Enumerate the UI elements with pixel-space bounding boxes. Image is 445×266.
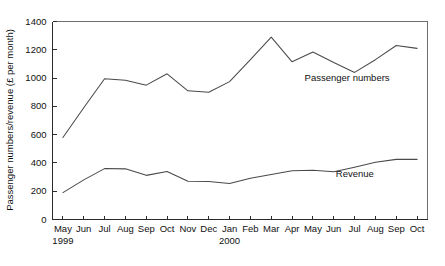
x-axis-tick-label: Nov xyxy=(179,223,196,234)
x-axis-tick-label: Jan xyxy=(222,223,237,234)
y-axis-ticks xyxy=(53,22,57,220)
x-axis-ticks xyxy=(63,216,417,220)
x-axis-tick-label: Aug xyxy=(117,223,134,234)
y-axis-tick-label: 1000 xyxy=(25,72,46,83)
plot-axes xyxy=(53,22,428,220)
x-axis-tick-label: May xyxy=(54,223,72,234)
y-axis-tick-label: 400 xyxy=(31,157,47,168)
y-axis-tick-labels: 0200400600800100012001400 xyxy=(25,16,46,225)
x-axis-tick-label: Oct xyxy=(410,223,425,234)
y-axis-title: Passenger numbers/revenue (£ per month) xyxy=(4,29,15,211)
x-axis-tick-label: Aug xyxy=(367,223,384,234)
x-axis-tick-label: Mar xyxy=(263,223,279,234)
x-axis-tick-label: Oct xyxy=(160,223,175,234)
x-axis-tick-label: May xyxy=(304,223,322,234)
x-axis-tick-label: Sep xyxy=(388,223,405,234)
x-axis-year-label: 2000 xyxy=(219,235,240,246)
plot-frame xyxy=(53,22,428,220)
x-axis-tick-label: Jun xyxy=(326,223,341,234)
series-label-passenger-numbers: Passenger numbers xyxy=(305,72,390,83)
series-inline-labels: Passenger numbersRevenue xyxy=(305,72,390,179)
x-axis-tick-label: Feb xyxy=(242,223,258,234)
x-axis-tick-labels: MayJunJulAugSepOctNovDecJanFebMarAprMayJ… xyxy=(54,223,425,234)
x-axis-tick-label: Jun xyxy=(76,223,91,234)
y-axis-tick-label: 1400 xyxy=(25,16,46,27)
line-chart: 0200400600800100012001400 MayJunJulAugSe… xyxy=(0,0,445,266)
chart-canvas: 0200400600800100012001400 MayJunJulAugSe… xyxy=(0,0,445,266)
x-axis-tick-label: Dec xyxy=(200,223,217,234)
y-axis-tick-label: 0 xyxy=(41,214,46,225)
x-axis-tick-label: Apr xyxy=(285,223,300,234)
x-axis-tick-label: Jul xyxy=(349,223,361,234)
x-axis-year-label: 1999 xyxy=(52,235,73,246)
series-line-passenger-numbers xyxy=(63,37,417,137)
x-axis-tick-label: Jul xyxy=(99,223,111,234)
y-axis-tick-label: 1200 xyxy=(25,44,46,55)
series-label-revenue: Revenue xyxy=(336,168,374,179)
x-axis-year-labels: 19992000 xyxy=(52,235,240,246)
x-axis-tick-label: Sep xyxy=(138,223,155,234)
y-axis-tick-label: 800 xyxy=(31,100,47,111)
y-axis-tick-label: 200 xyxy=(31,185,47,196)
y-axis-tick-label: 600 xyxy=(31,129,47,140)
